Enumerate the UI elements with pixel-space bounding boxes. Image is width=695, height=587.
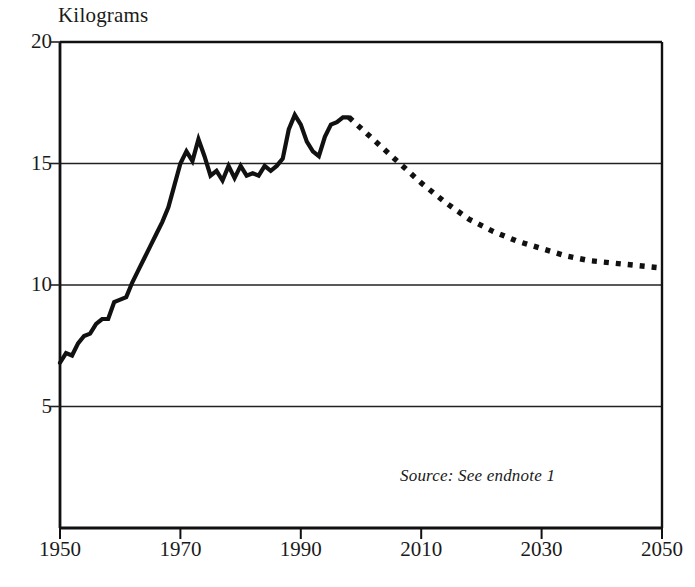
x-axis-ticks — [60, 528, 662, 539]
plot-area — [0, 0, 695, 587]
gridlines — [60, 164, 662, 407]
series-projection — [349, 117, 662, 268]
source-note: Source: See endnote 1 — [400, 466, 555, 486]
y-axis-ticks — [50, 42, 60, 407]
data-series-layer — [60, 115, 662, 363]
series-historical — [60, 115, 349, 363]
chart-figure: Kilograms 2015105 1950197019902010203020… — [0, 0, 695, 587]
